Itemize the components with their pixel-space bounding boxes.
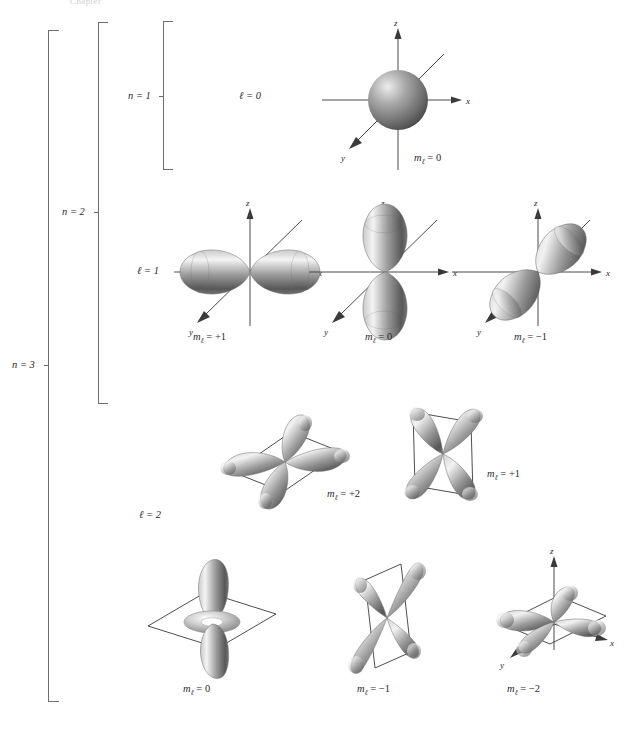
m-symbol: m <box>327 488 335 499</box>
orbital-d-mplus1: mℓ = +1 <box>355 400 535 515</box>
orbital-s-m0-graphic: z x y <box>308 22 488 182</box>
m-value: = −1 <box>527 331 547 342</box>
bracket-n2 <box>98 22 108 404</box>
orbital-d-mplus2: mℓ = +2 <box>195 408 375 518</box>
orbital-d-mplus1-caption: mℓ = +1 <box>487 468 520 482</box>
bracket-n3 <box>48 30 59 702</box>
m-subscript: ℓ <box>515 688 518 697</box>
orbital-d-m0: mℓ = 0 <box>128 548 308 688</box>
subshell-label-l2: ℓ = 2 <box>139 509 161 520</box>
m-symbol: m <box>193 331 201 342</box>
bracket-n3-tick <box>44 365 49 366</box>
orbital-d-mminus2-caption: mℓ = −2 <box>507 683 540 697</box>
orbital-d-mminus1-caption: mℓ = −1 <box>357 683 390 697</box>
m-subscript: ℓ <box>522 336 525 345</box>
m-value: = −2 <box>520 683 540 694</box>
m-subscript: ℓ <box>335 493 338 502</box>
axis-label-x: x <box>465 96 470 106</box>
m-symbol: m <box>357 683 365 694</box>
m-value: = +1 <box>206 331 226 342</box>
m-subscript: ℓ <box>191 688 194 697</box>
bracket-n3-label: n = 3 <box>12 359 35 370</box>
m-subscript: ℓ <box>201 336 204 345</box>
axis-label-x: x <box>605 268 610 278</box>
orbital-p-mminus1-caption: mℓ = −1 <box>514 331 547 345</box>
m-value: = 0 <box>427 152 441 163</box>
bracket-n2-label: n = 2 <box>62 206 85 217</box>
m-subscript: ℓ <box>422 157 425 166</box>
m-value: = 0 <box>196 683 210 694</box>
m-subscript: ℓ <box>365 688 368 697</box>
m-symbol: m <box>487 468 495 479</box>
orbital-d-mminus1: mℓ = −1 <box>305 548 465 688</box>
orbital-p-mplus1-caption: mℓ = +1 <box>193 331 226 345</box>
m-subscript: ℓ <box>495 473 498 482</box>
orbital-d-mminus2-graphic: z x y <box>450 540 625 690</box>
orbital-d-mplus1-graphic <box>355 400 535 515</box>
m-subscript: ℓ <box>373 336 376 345</box>
axis-label-y: y <box>476 327 481 337</box>
orbital-d-m0-graphic <box>128 548 308 688</box>
subshell-label-l1: ℓ = 1 <box>137 265 159 276</box>
orbital-d-mminus1-graphic <box>305 548 465 688</box>
m-symbol: m <box>414 152 422 163</box>
m-value: = +1 <box>500 468 520 479</box>
top-note: Chapter <box>70 0 101 6</box>
figure-canvas: Chapter n = 3 n = 2 n = 1 ℓ = 0 ℓ = 1 ℓ … <box>0 0 629 729</box>
m-symbol: m <box>507 683 515 694</box>
bracket-n2-tick <box>94 212 99 213</box>
axis-label-z: z <box>533 198 538 208</box>
orbital-s-m0-caption: mℓ = 0 <box>414 152 441 166</box>
m-symbol: m <box>183 683 191 694</box>
subshell-label-l0: ℓ = 0 <box>239 90 261 101</box>
orbital-p-mminus1-graphic: z x y <box>448 198 628 338</box>
orbital-s-m0: z x y mℓ = 0 <box>308 22 488 182</box>
m-symbol: m <box>514 331 522 342</box>
axis-label-y: y <box>340 153 345 163</box>
orbital-d-mminus2: z x y mℓ = −2 <box>450 540 625 690</box>
m-symbol: m <box>365 331 373 342</box>
bracket-n1 <box>163 21 173 170</box>
orbital-d-m0-caption: mℓ = 0 <box>183 683 210 697</box>
axis-label-x: x <box>609 638 614 648</box>
axis-label-z: z <box>245 198 250 208</box>
bracket-n1-tick <box>159 96 164 97</box>
orbital-p-mminus1: z x y mℓ = −1 <box>448 198 628 338</box>
axis-label-y: y <box>323 327 328 337</box>
axis-label-z: z <box>393 18 398 28</box>
m-value: = −1 <box>370 683 390 694</box>
axis-label-y: y <box>499 660 504 670</box>
bracket-n1-label: n = 1 <box>128 90 151 101</box>
axis-label-z: z <box>549 546 554 556</box>
m-value: = 0 <box>378 331 392 342</box>
orbital-p-m0-caption: mℓ = 0 <box>365 331 392 345</box>
